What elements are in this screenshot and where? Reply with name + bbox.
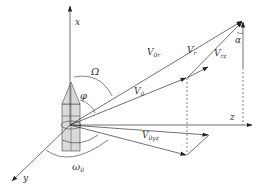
vector-diagram: x z y Ω φ ω0 α V0r Vr Vrz V0 V0yz xyxy=(0,0,258,187)
vrz-label: Vrz xyxy=(214,48,227,59)
x-axis-label: x xyxy=(75,17,80,27)
z-axis-label: z xyxy=(229,112,235,122)
v0yz-label: V0yz xyxy=(142,130,160,142)
v0-label: V0 xyxy=(134,86,145,97)
omega0-angle-label: ω0 xyxy=(72,161,84,173)
alpha-angle-label: α xyxy=(235,35,241,45)
vr-label: Vr xyxy=(187,45,198,56)
vector-v0 xyxy=(70,78,186,125)
vector-lower-connector xyxy=(187,135,209,155)
y-axis-label: y xyxy=(22,173,29,183)
phi-angle-label: φ xyxy=(80,90,87,101)
alpha-arc xyxy=(237,32,243,34)
y-axis xyxy=(12,125,70,181)
vector-connector xyxy=(187,67,208,78)
v0r-label: V0r xyxy=(147,47,161,58)
omega-angle-label: Ω xyxy=(90,66,99,77)
